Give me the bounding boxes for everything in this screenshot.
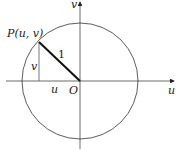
unit-circle-diagram: P(u, v) 1 v u O u v bbox=[0, 0, 176, 150]
origin-label: O bbox=[69, 84, 78, 97]
u-segment-label: u bbox=[51, 83, 58, 96]
radius-label: 1 bbox=[58, 48, 65, 61]
v-segment-label: v bbox=[31, 60, 38, 73]
y-axis-label: v bbox=[71, 0, 78, 11]
point-label: P(u, v) bbox=[6, 27, 43, 40]
x-axis-label: u bbox=[168, 84, 175, 97]
